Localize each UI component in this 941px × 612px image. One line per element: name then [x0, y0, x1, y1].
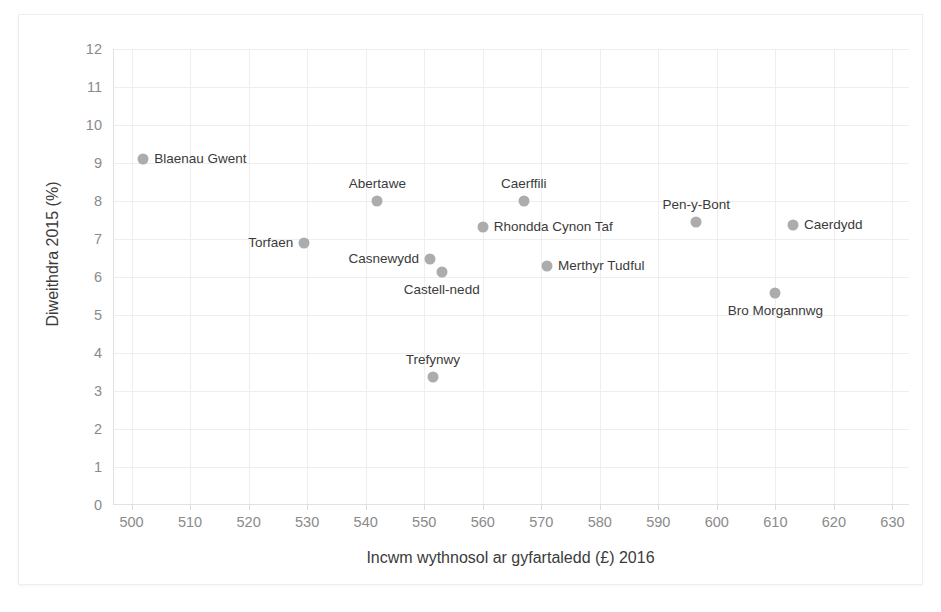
scatter-point[interactable] — [518, 196, 529, 207]
y-axis-tick-label: 5 — [94, 307, 102, 323]
x-axis-tick-mark — [483, 504, 484, 510]
scatter-point[interactable] — [542, 260, 553, 271]
gridline-vertical — [600, 49, 601, 504]
scatter-point-label: Caerdydd — [804, 218, 863, 232]
gridline-horizontal — [114, 87, 909, 88]
x-axis-tick-label: 500 — [119, 514, 143, 530]
x-axis-tick-mark — [658, 504, 659, 510]
scatter-point[interactable] — [477, 221, 488, 232]
gridline-horizontal — [114, 391, 909, 392]
y-axis-tick-label: 4 — [94, 345, 102, 361]
gridline-vertical — [658, 49, 659, 504]
scatter-point-label: Pen-y-Bont — [663, 197, 731, 211]
x-axis-tick-mark — [307, 504, 308, 510]
x-axis-tick-mark — [600, 504, 601, 510]
gridline-horizontal — [114, 277, 909, 278]
scatter-point-label: Caerffili — [501, 177, 547, 191]
x-axis-tick-mark — [717, 504, 718, 510]
scatter-point-label: Abertawe — [349, 177, 406, 191]
y-axis-tick-label: 10 — [86, 117, 102, 133]
y-axis-tick-label: 11 — [87, 79, 102, 95]
x-axis-tick-label: 600 — [705, 514, 729, 530]
scatter-point[interactable] — [427, 371, 438, 382]
x-axis-tick-label: 530 — [295, 514, 319, 530]
x-axis-tick-mark — [132, 504, 133, 510]
x-axis-tick-label: 570 — [529, 514, 553, 530]
gridline-vertical — [892, 49, 893, 504]
gridline-vertical — [834, 49, 835, 504]
x-axis-tick-label: 590 — [646, 514, 670, 530]
gridline-vertical — [541, 49, 542, 504]
y-axis-tick-label: 2 — [94, 421, 102, 437]
x-axis-tick-label: 550 — [412, 514, 436, 530]
scatter-point[interactable] — [691, 216, 702, 227]
gridline-vertical — [717, 49, 718, 504]
y-axis-tick-label: 7 — [94, 231, 102, 247]
gridline-vertical — [190, 49, 191, 504]
x-axis-tick-label: 580 — [588, 514, 612, 530]
gridline-horizontal — [114, 467, 909, 468]
x-axis-tick-label: 540 — [354, 514, 378, 530]
x-axis-tick-label: 620 — [822, 514, 846, 530]
x-axis-tick-mark — [190, 504, 191, 510]
gridline-horizontal — [114, 353, 909, 354]
scatter-point[interactable] — [770, 287, 781, 298]
scatter-point[interactable] — [787, 219, 798, 230]
gridline-horizontal — [114, 201, 909, 202]
scatter-point-label: Trefynwy — [406, 352, 460, 366]
x-axis-tick-label: 510 — [178, 514, 202, 530]
gridline-vertical — [483, 49, 484, 504]
gridline-horizontal — [114, 429, 909, 430]
gridline-horizontal — [114, 49, 909, 50]
scatter-point-label: Torfaen — [248, 236, 293, 250]
y-axis-title: Diweithdra 2015 (%) — [44, 54, 62, 454]
x-axis-tick-label: 630 — [880, 514, 904, 530]
gridline-vertical — [366, 49, 367, 504]
scatter-point-label: Merthyr Tudful — [558, 259, 644, 273]
x-axis-tick-mark — [775, 504, 776, 510]
x-axis-tick-label: 520 — [237, 514, 261, 530]
gridline-horizontal — [114, 239, 909, 240]
gridline-horizontal — [114, 125, 909, 126]
scatter-point[interactable] — [436, 267, 447, 278]
x-axis-tick-mark — [424, 504, 425, 510]
x-axis-tick-mark — [834, 504, 835, 510]
x-axis-tick-mark — [541, 504, 542, 510]
x-axis-tick-mark — [892, 504, 893, 510]
y-axis-tick-label: 1 — [94, 459, 102, 475]
scatter-point-label: Casnewydd — [349, 252, 420, 266]
x-axis-tick-mark — [366, 504, 367, 510]
y-axis-tick-label: 8 — [94, 193, 102, 209]
y-axis-tick-label: 12 — [86, 41, 102, 57]
x-axis-tick-label: 560 — [471, 514, 495, 530]
scatter-point[interactable] — [299, 237, 310, 248]
y-axis-tick-label: 0 — [94, 497, 102, 513]
gridline-vertical — [775, 49, 776, 504]
x-axis-tick-mark — [249, 504, 250, 510]
scatter-point-label: Blaenau Gwent — [154, 152, 246, 166]
gridline-vertical — [424, 49, 425, 504]
scatter-point[interactable] — [138, 154, 149, 165]
y-axis-tick-label: 3 — [94, 383, 102, 399]
x-axis-tick-label: 610 — [763, 514, 787, 530]
y-axis-tick-label: 9 — [94, 155, 102, 171]
y-axis-tick-label: 6 — [94, 269, 102, 285]
gridline-vertical — [132, 49, 133, 504]
scatter-plot-area: 0123456789101112500510520530540550560570… — [113, 49, 909, 505]
scatter-point[interactable] — [425, 253, 436, 264]
gridline-vertical — [307, 49, 308, 504]
x-axis-title: Incwm wythnosol ar gyfartaledd (£) 2016 — [113, 549, 908, 567]
chart-card: 0123456789101112500510520530540550560570… — [18, 14, 923, 585]
scatter-point-label: Bro Morgannwg — [728, 304, 823, 318]
gridline-vertical — [249, 49, 250, 504]
scatter-point-label: Castell-nedd — [404, 283, 480, 297]
scatter-point[interactable] — [372, 196, 383, 207]
scatter-point-label: Rhondda Cynon Taf — [494, 220, 613, 234]
